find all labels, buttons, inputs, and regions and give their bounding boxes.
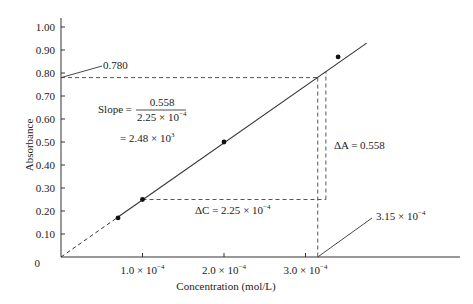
construction-lines	[61, 66, 372, 257]
delta-c-label: ΔC = 2.25 × 10−4	[195, 203, 271, 216]
axes: 00.100.200.300.400.500.600.700.800.901.0…	[35, 18, 461, 276]
data-point	[336, 55, 341, 60]
y-tick-label: 0.50	[36, 136, 56, 148]
slope-numerator: 0.558	[150, 96, 175, 108]
y-tick-label: 0.60	[36, 113, 56, 125]
slope-label: Slope =	[98, 103, 132, 115]
x-tick-label: 2.0 × 10−4	[202, 263, 246, 276]
data-point	[140, 197, 145, 202]
data-point	[116, 216, 121, 221]
fit-line	[61, 43, 367, 257]
y-tick-label: 0.80	[36, 67, 56, 79]
y-tick-label: 0.30	[36, 182, 56, 194]
x-callout-leader	[318, 218, 372, 257]
y-tick-label: 0.70	[36, 90, 56, 102]
y-tick-label: 0.10	[36, 228, 56, 240]
y-callout-leader	[61, 66, 102, 78]
y-tick-label: 0.90	[36, 44, 56, 56]
x-callout-label: 3.15 × 10−4	[376, 209, 426, 222]
fit-segment	[118, 43, 367, 217]
delta-a-label: ΔA = 0.558	[334, 139, 385, 151]
slope-denominator: 2.25 × 10−4	[137, 110, 187, 123]
y-tick-label: 1.00	[36, 21, 56, 33]
absorbance-chart: 00.100.200.300.400.500.600.700.800.901.0…	[0, 0, 473, 304]
x-tick-label: 1.0 × 10−4	[121, 263, 165, 276]
y-tick-label: 0	[35, 257, 41, 269]
y-tick-label: 0.40	[36, 159, 56, 171]
x-tick-label: 3.0 × 10−4	[284, 263, 328, 276]
x-axis-label: Concentration (mol/L)	[176, 280, 276, 293]
annotations: Absorbance Concentration (mol/L) 0.780 S…	[23, 59, 426, 293]
extrapolated-segment	[61, 217, 118, 257]
slope-result: = 2.48 × 103	[120, 131, 175, 144]
y-tick-label: 0.20	[36, 205, 56, 217]
y-callout-label: 0.780	[103, 59, 128, 71]
data-point	[222, 140, 227, 145]
y-axis-label: Absorbance	[23, 119, 35, 172]
